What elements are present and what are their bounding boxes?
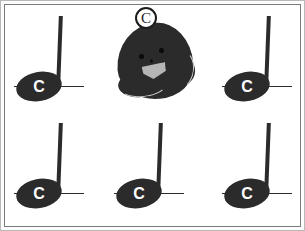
note-head-mascot[interactable]: C [109, 7, 201, 111]
mascot-nose-icon [150, 59, 153, 63]
note-letter-4: C [116, 179, 162, 208]
quarter-note-3[interactable]: C [14, 118, 88, 214]
note-letter-3: C [16, 179, 62, 208]
quarter-note-1[interactable]: C [14, 11, 88, 107]
quarter-note-5[interactable]: C [222, 118, 296, 214]
mascot-eye-left-icon [139, 54, 144, 59]
worksheet-canvas: C C C C C [5, 5, 300, 226]
quarter-note-4[interactable]: C [114, 118, 188, 214]
worksheet-stage: C C C C C [0, 0, 305, 231]
mascot-eye-right-icon [159, 48, 164, 53]
mascot-c-badge: C [135, 7, 157, 29]
quarter-note-2[interactable]: C [222, 11, 296, 107]
note-letter-2: C [224, 72, 270, 101]
note-letter-1: C [16, 72, 62, 101]
note-letter-5: C [224, 179, 270, 208]
